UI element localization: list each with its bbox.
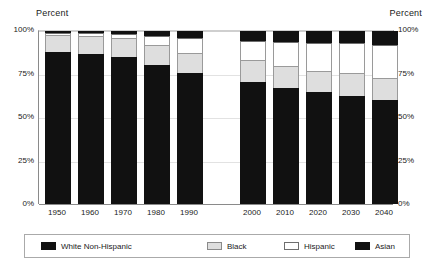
bar-segment-1970-black: [111, 38, 137, 57]
legend-swatch-icon: [207, 242, 222, 250]
legend-swatch-icon: [355, 242, 370, 250]
bar-segment-2020-hispanic: [306, 43, 332, 71]
legend-item-asian[interactable]: Asian: [355, 242, 395, 251]
bar-segment-2030-hispanic: [339, 43, 365, 73]
bar-segment-2020-white-non-hispanic: [306, 92, 332, 204]
x-axis-tick-1990: 1990: [169, 208, 209, 217]
legend-label: Black: [227, 242, 247, 251]
left-axis-caption: Percent: [36, 8, 68, 18]
legend-item-black[interactable]: Black: [207, 242, 247, 251]
bar-2030[interactable]: [339, 31, 365, 204]
right-axis-caption: Percent: [390, 8, 422, 18]
legend-label: Hispanic: [304, 242, 335, 251]
plot-area: [38, 30, 394, 204]
y-axis-tick-right-100pct: 100%: [398, 26, 418, 34]
legend-swatch-icon: [41, 242, 56, 250]
bar-segment-1970-white-non-hispanic: [111, 57, 137, 204]
bar-segment-2020-asian: [306, 31, 332, 43]
y-axis-tick-left-25pct: 25%: [18, 157, 34, 165]
bar-segment-2030-black: [339, 73, 365, 95]
bar-segment-2040-hispanic: [372, 45, 398, 78]
gridline-0pct: [39, 204, 393, 205]
bar-1990[interactable]: [177, 31, 203, 204]
legend-item-hispanic[interactable]: Hispanic: [284, 242, 335, 251]
bar-segment-2010-asian: [273, 31, 299, 42]
y-axis-tick-right-75pct: 75%: [398, 70, 414, 78]
legend-swatch-icon: [284, 242, 299, 250]
bar-segment-2010-hispanic: [273, 42, 299, 66]
bar-2010[interactable]: [273, 31, 299, 204]
bar-segment-2000-hispanic: [240, 41, 266, 61]
y-axis-tick-right-0pct: 0%: [398, 200, 410, 208]
y-axis-tick-left-0pct: 0%: [22, 200, 34, 208]
bar-segment-1960-black: [78, 36, 104, 54]
x-axis-tick-2040: 2040: [364, 208, 404, 217]
bar-segment-2030-asian: [339, 31, 365, 43]
bar-segment-2000-black: [240, 60, 266, 82]
bar-1960[interactable]: [78, 31, 104, 204]
bar-1970[interactable]: [111, 31, 137, 204]
bar-segment-1980-white-non-hispanic: [144, 65, 170, 204]
chart-legend: White Non-HispanicBlackHispanicAsian: [24, 234, 410, 258]
y-axis-tick-left-50pct: 50%: [18, 113, 34, 121]
bar-segment-2040-asian: [372, 31, 398, 45]
bar-2040[interactable]: [372, 31, 398, 204]
bar-segment-1980-black: [144, 45, 170, 65]
bar-segment-1950-white-non-hispanic: [45, 52, 71, 204]
bar-segment-2020-black: [306, 71, 332, 93]
bar-segment-2010-white-non-hispanic: [273, 88, 299, 204]
bar-segment-1950-black: [45, 35, 71, 51]
bar-segment-2010-black: [273, 66, 299, 88]
y-axis-tick-right-50pct: 50%: [398, 113, 414, 121]
bar-segment-1990-asian: [177, 31, 203, 38]
bar-segment-2040-black: [372, 78, 398, 100]
bar-segment-2000-asian: [240, 31, 266, 41]
bar-1950[interactable]: [45, 31, 71, 204]
legend-label: Asian: [375, 242, 395, 251]
stacked-bar-chart: Percent Percent White Non-HispanicBlackH…: [0, 0, 432, 265]
bar-2020[interactable]: [306, 31, 332, 204]
legend-item-white-non-hispanic[interactable]: White Non-Hispanic: [41, 242, 132, 251]
bar-segment-2000-white-non-hispanic: [240, 82, 266, 204]
bar-2000[interactable]: [240, 31, 266, 204]
bar-segment-1990-white-non-hispanic: [177, 73, 203, 204]
y-axis-tick-left-100pct: 100%: [14, 26, 34, 34]
bar-segment-2040-white-non-hispanic: [372, 100, 398, 204]
y-axis-tick-right-25pct: 25%: [398, 157, 414, 165]
bar-segment-1980-hispanic: [144, 36, 170, 45]
legend-label: White Non-Hispanic: [61, 242, 132, 251]
bar-segment-1960-white-non-hispanic: [78, 54, 104, 204]
y-axis-tick-left-75pct: 75%: [18, 70, 34, 78]
bar-segment-1990-hispanic: [177, 38, 203, 53]
bar-1980[interactable]: [144, 31, 170, 204]
bar-segment-2030-white-non-hispanic: [339, 96, 365, 204]
bar-segment-1990-black: [177, 53, 203, 74]
